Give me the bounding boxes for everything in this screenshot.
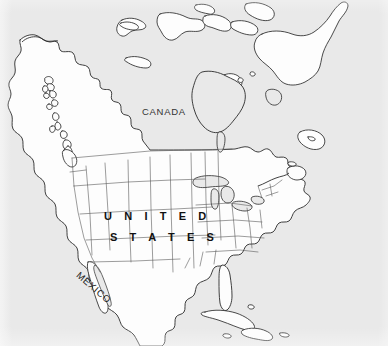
lake-huron	[221, 186, 234, 203]
arctic-islet-2	[250, 72, 255, 76]
lake-michigan	[211, 189, 219, 209]
map-canvas: .land { fill:#fdfdfd; stroke:#2a2a2a; st…	[0, 0, 388, 346]
puerto-rico	[280, 333, 289, 337]
bahamas-islet	[248, 305, 254, 309]
prince-edward-island	[288, 162, 296, 166]
arctic-islet-1	[238, 78, 243, 83]
jamaica	[223, 334, 231, 338]
north-america-outline-map: .land { fill:#fdfdfd; stroke:#2a2a2a; st…	[0, 0, 388, 346]
lake-ontario	[251, 196, 264, 204]
